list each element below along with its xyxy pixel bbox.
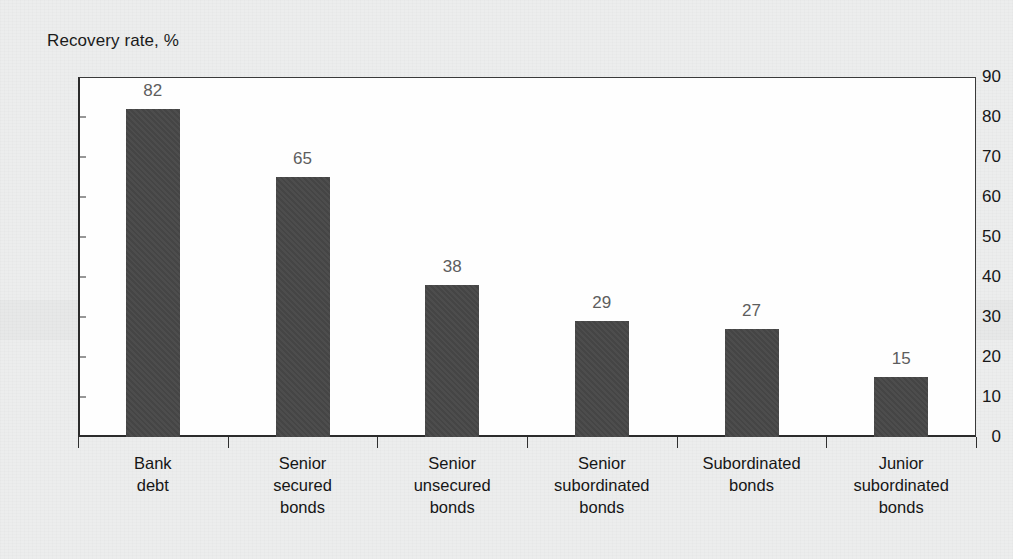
x-axis-category-label-line: bonds <box>814 496 989 518</box>
bar-value-label: 38 <box>443 257 462 277</box>
y-axis-tick-mark <box>78 117 86 118</box>
bar <box>874 377 928 437</box>
y-axis-tick-label: 60 <box>982 187 1001 207</box>
bar-value-label: 15 <box>892 349 911 369</box>
y-axis-tick-mark <box>78 317 86 318</box>
x-axis-category-label: Juniorsubordinatedbonds <box>814 452 989 518</box>
x-axis-tick-mark <box>228 437 229 448</box>
bar <box>126 109 180 437</box>
bar-value-label: 27 <box>742 301 761 321</box>
y-axis-tick-label: 40 <box>982 267 1001 287</box>
plot-area <box>78 77 976 437</box>
bar-value-label: 82 <box>143 81 162 101</box>
x-axis-category-label-line: bonds <box>514 496 689 518</box>
y-axis-tick-label: 10 <box>982 387 1001 407</box>
x-axis-category-label-line: Junior <box>814 452 989 474</box>
y-axis-tick-label: 80 <box>982 107 1001 127</box>
bar-value-label: 65 <box>293 149 312 169</box>
y-axis-tick-mark <box>78 357 86 358</box>
x-axis-tick-mark <box>377 437 378 448</box>
chart-title: Recovery rate, % <box>47 31 179 51</box>
bar-value-label: 29 <box>592 293 611 313</box>
y-axis-tick-mark <box>78 157 86 158</box>
y-axis-tick-label: 90 <box>982 67 1001 87</box>
x-axis-tick-mark <box>826 437 827 448</box>
x-axis-category-label-line: subordinated <box>814 474 989 496</box>
bar <box>425 285 479 437</box>
x-axis-tick-mark <box>78 437 79 448</box>
y-axis-tick-mark <box>78 277 86 278</box>
chart-figure: Recovery rate, % 9080706050403020100 826… <box>0 0 1013 559</box>
x-axis-tick-mark <box>677 437 678 448</box>
y-axis-tick-label: 30 <box>982 307 1001 327</box>
x-axis-tick-mark <box>976 437 977 448</box>
bar <box>725 329 779 437</box>
bar <box>276 177 330 437</box>
y-axis-tick-label: 20 <box>982 347 1001 367</box>
y-axis-tick-label: 0 <box>992 427 1001 447</box>
y-axis-tick-label: 50 <box>982 227 1001 247</box>
y-axis-tick-mark <box>78 397 86 398</box>
bar <box>575 321 629 437</box>
y-axis-tick-mark <box>78 197 86 198</box>
x-axis-tick-mark <box>527 437 528 448</box>
y-axis-tick-label: 70 <box>982 147 1001 167</box>
y-axis-tick-mark <box>78 237 86 238</box>
